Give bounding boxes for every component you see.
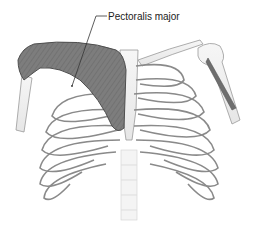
pectoralis-major-label: Pectoralis major	[108, 11, 180, 22]
spine	[121, 150, 137, 220]
left-humerus	[16, 75, 32, 132]
anatomy-figure: Pectoralis major	[0, 0, 258, 230]
ribcage-illustration	[0, 0, 258, 230]
